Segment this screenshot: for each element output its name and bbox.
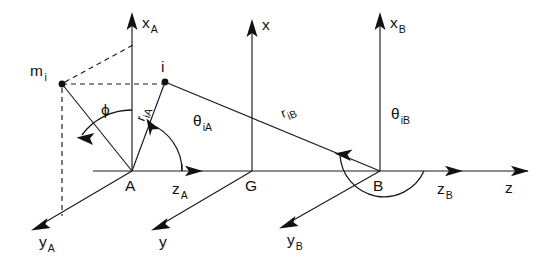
label-point-G: G xyxy=(245,177,257,194)
label-axis-zB-sub: B xyxy=(446,189,453,201)
label-vector-r-iA: riA xyxy=(133,105,155,124)
label-axis-xA-base: x xyxy=(142,14,150,31)
label-axis-xA-sub: A xyxy=(151,23,158,35)
axis-yA-arrowhead xyxy=(31,218,51,231)
position-vectors xyxy=(62,82,380,171)
label-angle-theta-iA: θiA xyxy=(193,112,212,133)
label-axis-zA-sub: A xyxy=(181,189,188,201)
axis-yA-line xyxy=(42,171,132,224)
label-axis-yB-sub: B xyxy=(296,240,303,252)
label-axis-y-base: y xyxy=(159,233,167,250)
axis-yB-line xyxy=(290,171,380,222)
label-axis-zA-base: z xyxy=(172,180,180,197)
label-axis-z-global-base: z xyxy=(505,179,513,196)
label-point-A: A xyxy=(125,177,136,194)
label-point-mi-sub: i xyxy=(44,71,46,83)
label-point-i: i xyxy=(161,58,164,75)
label-point-G-base: G xyxy=(245,177,257,194)
label-axis-x-base: x xyxy=(262,16,270,33)
axis-y-line xyxy=(162,171,252,224)
label-axis-yA-sub: A xyxy=(48,242,55,254)
label-axis-yA: yA xyxy=(39,233,55,254)
label-angle-theta-iA-sub: iA xyxy=(203,121,212,133)
label-point-mi-base: m xyxy=(30,62,43,79)
label-point-B-base: B xyxy=(373,177,383,194)
label-axis-xB-base: x xyxy=(390,14,398,31)
point-i-dot xyxy=(162,79,169,86)
dashed-construction-lines xyxy=(62,45,170,216)
label-axis-xA: xA xyxy=(142,14,158,35)
label-angle-theta-iB: θiB xyxy=(391,105,410,126)
label-axis-y: y xyxy=(159,233,167,250)
axis-y-arrowhead xyxy=(151,218,171,231)
label-axis-zB-base: z xyxy=(437,180,445,197)
label-vector-r-iB-sub: iB xyxy=(285,107,298,122)
label-axis-yA-base: y xyxy=(39,233,47,250)
label-angle-theta-iA-base: θ xyxy=(193,112,202,129)
label-point-i-base: i xyxy=(161,58,164,75)
label-axis-yB: yB xyxy=(287,231,303,252)
line-A-to-mi xyxy=(62,84,132,171)
label-angle-theta-iB-sub: iB xyxy=(401,114,410,126)
label-angle-phi: ϕ xyxy=(101,101,110,118)
arc-theta-iB-arrowhead xyxy=(335,150,353,162)
label-axis-zA: zA xyxy=(172,180,188,201)
point-mi-dot xyxy=(59,81,66,88)
frame-A-axes xyxy=(31,12,203,231)
label-angle-phi-base: ϕ xyxy=(101,101,110,118)
label-point-A-base: A xyxy=(125,177,136,194)
label-vector-r-iB: riB xyxy=(279,102,299,124)
diagram-root: xA x xB yA y yB zA zB z A G B i xyxy=(0,0,549,258)
axis-yB-arrowhead xyxy=(279,216,299,229)
label-point-mi: mi xyxy=(30,62,47,83)
label-angle-theta-iB-base: θ xyxy=(391,105,400,122)
label-point-B: B xyxy=(373,177,383,194)
label-axis-zB: zB xyxy=(437,180,453,201)
point-markers xyxy=(59,79,169,88)
label-axis-xB-sub: B xyxy=(399,23,406,35)
label-axis-xB: xB xyxy=(390,14,406,35)
coordinate-system-diagram: xA x xB yA y yB zA zB z A G B i xyxy=(0,0,549,258)
label-axis-z-global: z xyxy=(505,179,513,196)
dash-mi-to-xA-axis xyxy=(65,45,133,82)
arc-theta-iA xyxy=(150,124,182,171)
label-axis-x: x xyxy=(262,16,270,33)
label-axis-yB-base: y xyxy=(287,231,295,248)
arc-phi-arrowhead xyxy=(77,133,95,145)
